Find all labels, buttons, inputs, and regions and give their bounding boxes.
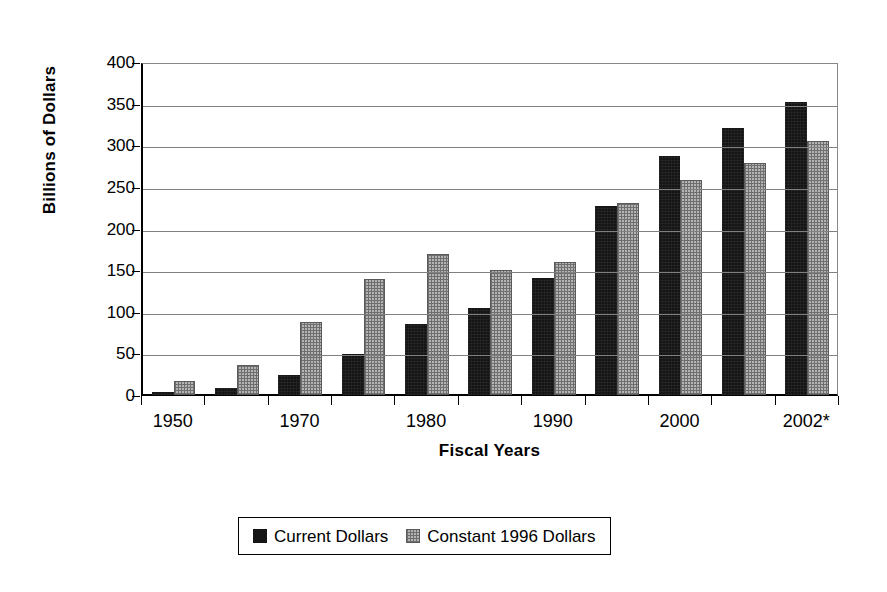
bar-group <box>525 64 588 395</box>
x-axis-tick-label: 2000 <box>660 410 700 432</box>
x-axis-tick-mark <box>141 396 142 405</box>
bar-current-dollars <box>152 392 174 395</box>
bar-current-dollars <box>785 102 807 395</box>
y-axis-tick-label: 400 <box>83 54 135 71</box>
x-axis-ticks <box>141 396 838 406</box>
bar-constant-1996-dollars <box>490 270 512 395</box>
gridline <box>143 355 837 356</box>
bar-current-dollars <box>342 354 364 395</box>
x-axis-tick-mark <box>394 396 395 405</box>
gridline <box>143 314 837 315</box>
x-axis-tick-mark <box>521 396 522 405</box>
y-axis-tick-label: 300 <box>83 137 135 154</box>
bar-chart: Billions of Dollars 05010015020025030035… <box>0 0 887 592</box>
bar-group <box>589 64 652 395</box>
plot-area <box>141 63 838 396</box>
y-axis-tick-label: 50 <box>83 345 135 362</box>
y-axis-tick-mark <box>132 354 140 355</box>
x-axis-tick-mark <box>204 396 205 405</box>
bar-constant-1996-dollars <box>807 141 829 395</box>
legend-label-current: Current Dollars <box>274 528 388 545</box>
x-axis-tick-mark <box>648 396 649 405</box>
gridline <box>143 272 837 273</box>
bar-group <box>715 64 778 395</box>
bar-constant-1996-dollars <box>680 180 702 395</box>
y-axis-tick-mark <box>132 63 140 64</box>
bar-group <box>272 64 335 395</box>
gridline <box>143 231 837 232</box>
legend-item-constant-dollars: Constant 1996 Dollars <box>406 528 595 545</box>
x-axis-tick-label: 1980 <box>406 410 446 432</box>
x-axis-tick-mark <box>331 396 332 405</box>
bar-constant-1996-dollars <box>554 262 576 395</box>
x-axis-tick-mark <box>838 396 839 405</box>
bar-constant-1996-dollars <box>744 163 766 395</box>
bar-current-dollars <box>278 375 300 395</box>
chart-legend: Current Dollars Constant 1996 Dollars <box>238 517 611 555</box>
y-axis-tick-label: 150 <box>83 262 135 279</box>
x-axis-tick-mark <box>585 396 586 405</box>
y-axis-tick-label: 350 <box>83 96 135 113</box>
y-axis-tick-mark <box>132 396 140 397</box>
bar-constant-1996-dollars <box>300 322 322 395</box>
y-axis-tick-label: 0 <box>83 387 135 404</box>
bar-current-dollars <box>595 206 617 395</box>
bar-constant-1996-dollars <box>427 254 449 395</box>
gridline <box>143 147 837 148</box>
bar-group <box>652 64 715 395</box>
bars-layer <box>145 64 838 395</box>
bar-constant-1996-dollars <box>364 279 386 395</box>
bar-current-dollars <box>215 388 237 395</box>
y-axis-tick-label: 200 <box>83 221 135 238</box>
bar-group <box>779 64 842 395</box>
bar-constant-1996-dollars <box>174 381 196 395</box>
y-axis-tick-mark <box>132 105 140 106</box>
y-axis-ticks: 050100150200250300350400 <box>75 63 135 396</box>
gridline <box>143 189 837 190</box>
y-axis-tick-mark <box>132 313 140 314</box>
bar-group <box>398 64 461 395</box>
x-axis-tick-label: 2002* <box>783 410 830 432</box>
x-axis-tick-label: 1970 <box>279 410 319 432</box>
x-axis-title: Fiscal Years <box>141 441 838 461</box>
bar-current-dollars <box>532 278 554 395</box>
bar-current-dollars <box>405 324 427 395</box>
x-axis-tick-mark <box>458 396 459 405</box>
y-axis-title: Billions of Dollars <box>40 30 60 250</box>
x-axis-tick-label: 1950 <box>153 410 193 432</box>
bar-current-dollars <box>659 156 681 395</box>
bar-constant-1996-dollars <box>617 203 639 395</box>
x-axis-tick-labels: 195019701980199020002002* <box>141 410 838 436</box>
legend-swatch-icon-current <box>253 529 267 543</box>
legend-label-constant: Constant 1996 Dollars <box>427 528 595 545</box>
legend-swatch-icon-constant <box>406 529 420 543</box>
bar-group <box>208 64 271 395</box>
y-axis-tick-label: 250 <box>83 179 135 196</box>
bar-group <box>462 64 525 395</box>
bar-group <box>335 64 398 395</box>
x-axis-tick-label: 1990 <box>533 410 573 432</box>
bar-current-dollars <box>468 308 490 395</box>
gridline <box>143 106 837 107</box>
bar-constant-1996-dollars <box>237 365 259 395</box>
x-axis-tick-mark <box>711 396 712 405</box>
legend-item-current-dollars: Current Dollars <box>253 528 388 545</box>
y-axis-tick-mark <box>132 188 140 189</box>
bar-group <box>145 64 208 395</box>
y-axis-tick-mark <box>132 146 140 147</box>
y-axis-tick-label: 100 <box>83 304 135 321</box>
x-axis-tick-mark <box>775 396 776 405</box>
x-axis-tick-mark <box>268 396 269 405</box>
y-axis-tick-mark <box>132 271 140 272</box>
y-axis-tick-mark <box>132 230 140 231</box>
